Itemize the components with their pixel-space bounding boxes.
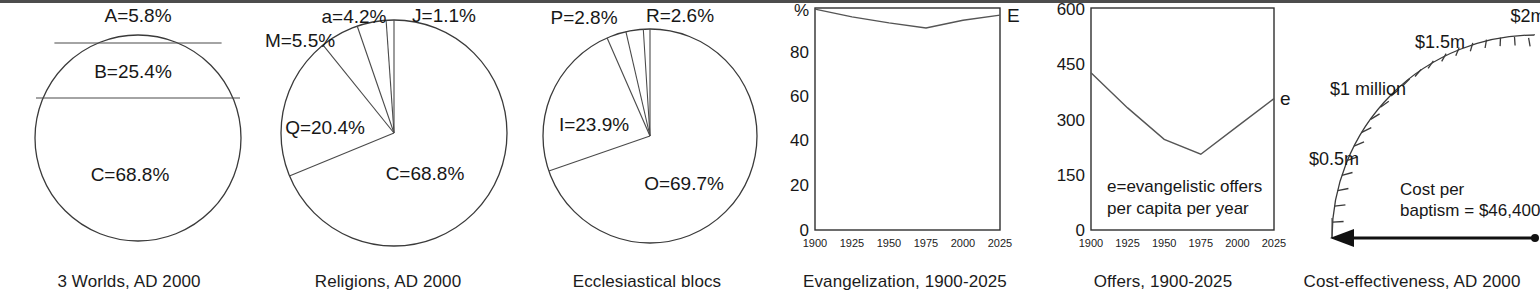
offers-line-chart: 600 450 300 150 0 1900 1925 1950 1975 20… bbox=[1034, 0, 1292, 262]
x-tick-label-1950: 1950 bbox=[877, 237, 901, 249]
y-tick-label-60: 60 bbox=[790, 87, 809, 106]
y-tick-label-300: 300 bbox=[1057, 111, 1085, 130]
gauge-needle-arrowhead bbox=[1330, 229, 1354, 247]
caption-offers: Offers, 1900-2025 bbox=[1034, 272, 1292, 292]
y-tick-label-40: 40 bbox=[790, 131, 809, 150]
label-segment-i: I=23.9% bbox=[559, 114, 629, 135]
x-tick-label-2025: 2025 bbox=[1262, 237, 1286, 249]
x-tick-label-1950: 1950 bbox=[1152, 237, 1176, 249]
x-tick-label-1975: 1975 bbox=[914, 237, 938, 249]
x-tick-label-2025: 2025 bbox=[988, 237, 1012, 249]
y-tick-label-20: 20 bbox=[790, 176, 809, 195]
caption-ecclesiastical-blocs: Ecclesiastical blocs bbox=[518, 272, 776, 292]
dial-label-half-million: $0.5m bbox=[1309, 149, 1359, 169]
gauge-pivot bbox=[1531, 234, 1539, 242]
x-tick-label-1925: 1925 bbox=[840, 237, 864, 249]
label-segment-o: O=69.7% bbox=[644, 173, 724, 194]
x-tick-label-2000: 2000 bbox=[951, 237, 975, 249]
ecclesiastical-blocs-pie-chart: P=2.8% R=2.6% I=23.9% O=69.7% bbox=[518, 0, 776, 262]
plot-area bbox=[815, 8, 1000, 230]
pie-ray-a-j bbox=[386, 20, 394, 133]
panel-ecclesiastical-blocs: P=2.8% R=2.6% I=23.9% O=69.7% Ecclesiast… bbox=[518, 0, 776, 297]
y-axis-title: % bbox=[794, 1, 809, 20]
caption-religions: Religions, AD 2000 bbox=[258, 272, 518, 292]
panel-offers: 600 450 300 150 0 1900 1925 1950 1975 20… bbox=[1034, 0, 1292, 297]
dial-label-one-million: $1 million bbox=[1330, 79, 1406, 99]
dial-label-one-point-five-million: $1.5m bbox=[1415, 32, 1465, 52]
y-tick-label-600: 600 bbox=[1057, 0, 1085, 19]
series-label-e: e bbox=[1280, 88, 1291, 109]
label-segment-c: C=68.8% bbox=[386, 163, 465, 184]
x-tick-label-1900: 1900 bbox=[1079, 237, 1103, 249]
offers-note-line-1: e=evangelistic offers bbox=[1107, 177, 1262, 196]
x-tick-label-1925: 1925 bbox=[1115, 237, 1139, 249]
y-tick-label-80: 80 bbox=[790, 43, 809, 62]
label-segment-c: C=68.8% bbox=[91, 164, 170, 185]
six-panel-statistics-figure: A=5.8% B=25.4% C=68.8% 3 Worlds, AD 2000… bbox=[0, 0, 1540, 297]
y-tick-label-450: 450 bbox=[1057, 55, 1085, 74]
cost-effectiveness-gauge: $0.5m $1 million $1.5m $2m Cost per bapt… bbox=[1292, 0, 1540, 262]
panel-religions: a=4.2% J=1.1% M=5.5% Q=20.4% C=68.8% Rel… bbox=[258, 0, 518, 297]
label-segment-b: B=25.4% bbox=[94, 61, 172, 82]
caption-evangelization: Evangelization, 1900-2025 bbox=[776, 272, 1034, 292]
x-tick-label-1975: 1975 bbox=[1189, 237, 1213, 249]
cost-note-line-1: Cost per bbox=[1400, 180, 1465, 199]
dial-label-two-million: $2m bbox=[1510, 6, 1540, 26]
x-tick-label-1900: 1900 bbox=[803, 237, 827, 249]
evangelization-line-chart: % 80 60 40 20 0 1900 1925 1950 1975 2000… bbox=[776, 0, 1034, 262]
caption-three-worlds: 3 Worlds, AD 2000 bbox=[0, 272, 258, 292]
cost-note-line-2: baptism = $46,400 bbox=[1400, 201, 1540, 220]
label-segment-a-lower: a=4.2% bbox=[322, 6, 387, 27]
pie-ray-o-i bbox=[549, 136, 650, 171]
panel-cost-effectiveness: $0.5m $1 million $1.5m $2m Cost per bapt… bbox=[1292, 0, 1540, 297]
caption-cost-effectiveness: Cost-effectiveness, AD 2000 bbox=[1288, 272, 1536, 292]
label-segment-m: M=5.5% bbox=[265, 30, 335, 51]
offers-note-line-2: per capita per year bbox=[1107, 199, 1249, 218]
label-segment-j: J=1.1% bbox=[412, 5, 476, 26]
y-tick-label-150: 150 bbox=[1057, 166, 1085, 185]
religions-pie-chart: a=4.2% J=1.1% M=5.5% Q=20.4% C=68.8% bbox=[258, 0, 518, 262]
label-segment-p: P=2.8% bbox=[550, 7, 617, 28]
three-worlds-band-circle: A=5.8% B=25.4% C=68.8% bbox=[0, 0, 258, 262]
pie-ray-c-q bbox=[289, 133, 394, 176]
label-segment-a: A=5.8% bbox=[104, 5, 171, 26]
panel-evangelization: % 80 60 40 20 0 1900 1925 1950 1975 2000… bbox=[776, 0, 1034, 297]
label-segment-r: R=2.6% bbox=[646, 5, 714, 26]
label-segment-q: Q=20.4% bbox=[285, 117, 365, 138]
panel-three-worlds: A=5.8% B=25.4% C=68.8% 3 Worlds, AD 2000 bbox=[0, 0, 258, 297]
series-label-E: E bbox=[1007, 5, 1020, 26]
x-tick-label-2000: 2000 bbox=[1225, 237, 1249, 249]
